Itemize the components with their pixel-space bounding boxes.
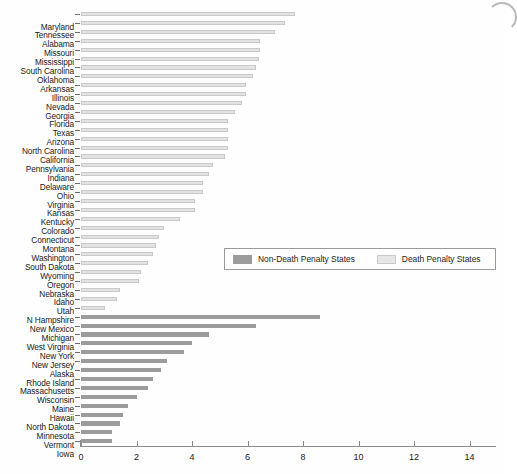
bar: [81, 128, 228, 132]
category-label: Vermont: [44, 441, 74, 449]
y-axis-tick: [75, 308, 80, 309]
category-label: Delaware: [40, 183, 74, 191]
bar: [81, 324, 256, 328]
x-axis-tick-label: 10: [349, 452, 369, 462]
category-label: Washington: [31, 254, 74, 262]
x-axis-tick: [303, 441, 304, 447]
x-axis-tick: [414, 441, 415, 447]
y-axis-tick: [75, 103, 80, 104]
bar: [81, 199, 195, 203]
y-axis-tick: [75, 406, 80, 407]
bar: [81, 270, 141, 274]
bar: [81, 386, 148, 390]
chart-legend: Non-Death Penalty States Death Penalty S…: [224, 248, 496, 270]
y-axis-tick: [75, 326, 80, 327]
x-axis-tick-label: 0: [71, 452, 91, 462]
legend-label-death-penalty: Death Penalty States: [402, 254, 481, 264]
bar: [81, 65, 256, 69]
category-label: Minnesota: [37, 432, 74, 440]
y-axis-tick: [75, 76, 80, 77]
bar: [81, 297, 117, 301]
category-label-column: MarylandTennesseeAlabamaMissouriMississi…: [0, 12, 74, 444]
x-axis-tick: [137, 441, 138, 447]
bar: [81, 261, 148, 265]
category-label: South Dakota: [25, 263, 74, 271]
category-label: Oklahoma: [37, 76, 74, 84]
bar: [81, 226, 164, 230]
y-axis-tick: [75, 441, 80, 442]
bar: [81, 154, 225, 158]
y-axis-tick: [75, 254, 80, 255]
y-axis-tick: [75, 299, 80, 300]
bar: [81, 137, 228, 141]
bar: [81, 368, 161, 372]
category-label: New Jersey: [32, 361, 74, 369]
bar: [81, 101, 242, 105]
category-label: Oregon: [47, 281, 74, 289]
bar: [81, 413, 123, 417]
bar: [81, 279, 139, 283]
category-label: Wyoming: [40, 272, 74, 280]
bar: [81, 252, 153, 256]
bar: [81, 332, 209, 336]
y-axis-tick: [75, 415, 80, 416]
y-axis-tick: [75, 263, 80, 264]
y-axis-tick: [75, 432, 80, 433]
legend-swatch-icon-death-penalty: [377, 255, 396, 264]
y-axis-tick: [75, 139, 80, 140]
bar: [81, 350, 184, 354]
bar: [81, 12, 295, 16]
y-axis-tick: [75, 219, 80, 220]
y-axis-tick: [75, 50, 80, 51]
y-axis-tick: [75, 156, 80, 157]
bar: [81, 119, 228, 123]
bar: [81, 421, 120, 425]
y-axis-tick: [75, 290, 80, 291]
bar: [81, 83, 246, 87]
x-axis-tick: [470, 441, 471, 447]
bar: [81, 395, 137, 399]
bar: [81, 57, 259, 61]
bar: [81, 359, 167, 363]
category-label: Pennsylvania: [26, 165, 74, 173]
category-label: Arkansas: [40, 85, 74, 93]
bar: [81, 341, 192, 345]
y-axis-tick: [75, 192, 80, 193]
bar: [81, 48, 260, 52]
bar: [81, 163, 213, 167]
y-axis-tick: [75, 245, 80, 246]
y-axis-tick: [75, 379, 80, 380]
bar: [81, 306, 105, 310]
y-axis-tick: [75, 343, 80, 344]
y-axis-tick: [75, 94, 80, 95]
bar: [81, 404, 128, 408]
legend-entry-non-death-penalty: Non-Death Penalty States: [225, 249, 355, 269]
category-label: Illinois: [52, 94, 74, 102]
x-axis-line: [80, 446, 496, 447]
bar: [81, 235, 159, 239]
y-axis-tick: [75, 237, 80, 238]
x-axis-tick-label: 12: [404, 452, 424, 462]
bar: [81, 39, 260, 43]
y-axis-tick: [75, 67, 80, 68]
legend-swatch-icon-non-death-penalty: [233, 255, 252, 264]
bar: [81, 243, 156, 247]
category-label: West Virginia: [27, 343, 74, 351]
category-label: Indiana: [47, 174, 74, 182]
y-axis-tick: [75, 183, 80, 184]
y-axis-tick: [75, 370, 80, 371]
bar: [81, 288, 120, 292]
y-axis-tick: [75, 32, 80, 33]
x-axis-tick-label: 2: [127, 452, 147, 462]
x-axis-tick-label: 4: [182, 452, 202, 462]
y-axis-tick: [75, 130, 80, 131]
bar: [81, 21, 285, 25]
category-label: New York: [40, 352, 74, 360]
bar: [81, 190, 203, 194]
y-axis-tick: [75, 334, 80, 335]
y-axis-tick: [75, 423, 80, 424]
category-label: Alaska: [50, 370, 74, 378]
legend-entry-death-penalty: Death Penalty States: [369, 249, 481, 269]
x-axis-tick: [359, 441, 360, 447]
bar: [81, 217, 180, 221]
